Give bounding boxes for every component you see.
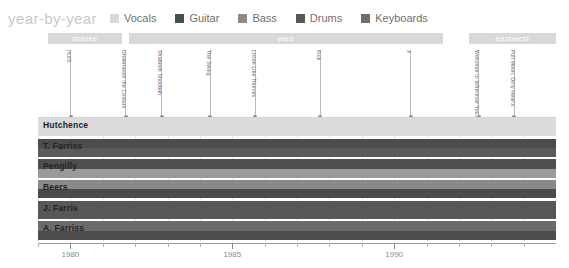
x-tick-minor	[427, 243, 428, 247]
legend-swatch-drums	[296, 14, 305, 23]
legend-label-drums: Drums	[310, 12, 342, 24]
x-tick-minor	[459, 243, 460, 247]
album-marker: The Swing	[210, 50, 211, 117]
member-name: Beers	[43, 182, 68, 192]
plot-area: HutchenceT. FarrissPengillyBeersJ. Farri…	[38, 118, 556, 242]
legend-item-guitar: Guitar	[175, 12, 219, 24]
member-row	[38, 180, 556, 201]
album-title: Shabooh Shoobah	[157, 50, 163, 95]
member-row	[38, 139, 556, 160]
label-band-wea: wea	[129, 33, 443, 44]
album-title: Kick	[316, 50, 322, 60]
album-marker: Shabooh Shoobah	[161, 50, 162, 117]
x-tick-minor	[265, 243, 266, 247]
member-row	[38, 118, 556, 139]
x-tick-minor	[329, 243, 330, 247]
legend-label-guitar: Guitar	[189, 12, 219, 24]
member-row	[38, 201, 556, 222]
album-marker: Full Moon, Dirty Hearts	[514, 50, 515, 117]
album-marker: Listen Like Thieves	[255, 50, 256, 117]
page-title: year-by-year	[8, 10, 97, 27]
x-tick-minor	[135, 243, 136, 247]
x-tick-major	[70, 243, 71, 249]
album-marker: X	[410, 50, 411, 117]
x-tick-major	[394, 243, 395, 249]
x-tick-minor	[103, 243, 104, 247]
year-by-year-chart: year-by-year VocalsGuitarBassDrumsKeyboa…	[0, 0, 569, 268]
album-title: Listen Like Thieves	[251, 50, 257, 97]
legend-label-bass: Bass	[252, 12, 276, 24]
x-tick-minor	[297, 243, 298, 247]
legend-swatch-bass	[238, 14, 247, 23]
album-title: X	[406, 50, 412, 54]
legend-label-vocals: Vocals	[124, 12, 156, 24]
x-tick-minor	[200, 243, 201, 247]
legend: VocalsGuitarBassDrumsKeyboards	[110, 12, 447, 24]
instrument-bar-guitar	[38, 189, 556, 198]
instrument-bar-keyboards	[38, 148, 556, 157]
instrument-bar-vocals	[38, 118, 556, 136]
x-tick-label: 1990	[385, 250, 403, 259]
legend-label-keyboards: Keyboards	[375, 12, 428, 24]
album-marker: Welcome to Wherever You Are	[478, 50, 479, 117]
instrument-bar-guitar	[38, 231, 556, 240]
x-tick-minor	[491, 243, 492, 247]
legend-swatch-vocals	[110, 14, 119, 23]
x-tick-major	[232, 243, 233, 249]
legend-item-drums: Drums	[296, 12, 342, 24]
album-title: Welcome to Wherever You Are	[474, 50, 480, 125]
instrument-bar-guitar	[38, 139, 556, 148]
legend-item-vocals: Vocals	[110, 12, 156, 24]
member-name: Pengilly	[43, 161, 77, 171]
instrument-bar-keyboards	[38, 221, 556, 230]
legend-item-keyboards: Keyboards	[361, 12, 428, 24]
member-name: Hutchence	[43, 120, 88, 130]
album-marker: Kick	[320, 50, 321, 117]
instrument-bar-bass	[38, 180, 556, 189]
member-name: A. Farriss	[43, 223, 84, 233]
instrument-bar-guitar	[38, 159, 556, 168]
album-title: INXS	[66, 50, 72, 63]
label-band-deluxe: deluxe	[48, 33, 122, 44]
x-tick-label: 1980	[61, 250, 79, 259]
x-tick-minor	[362, 243, 363, 247]
instrument-bar-drums	[38, 201, 556, 219]
album-title: Full Moon, Dirty Hearts	[510, 50, 516, 107]
member-name: J. Farris	[43, 203, 78, 213]
legend-swatch-keyboards	[361, 14, 370, 23]
x-tick-label: 1985	[223, 250, 241, 259]
album-title: The Swing	[206, 50, 212, 76]
x-tick-minor	[524, 243, 525, 247]
member-row	[38, 221, 556, 242]
instrument-bar-bass	[38, 169, 556, 178]
legend-item-bass: Bass	[238, 12, 276, 24]
label-band-eastwest: eastwest	[469, 33, 556, 44]
x-tick-minor	[38, 243, 39, 247]
member-name: T. Farriss	[43, 141, 82, 151]
legend-swatch-guitar	[175, 14, 184, 23]
member-row	[38, 159, 556, 180]
x-tick-minor	[168, 243, 169, 247]
album-marker: INXS	[70, 50, 71, 117]
album-title: Underneath the Colours	[121, 50, 127, 108]
album-marker: Underneath the Colours	[125, 50, 126, 117]
